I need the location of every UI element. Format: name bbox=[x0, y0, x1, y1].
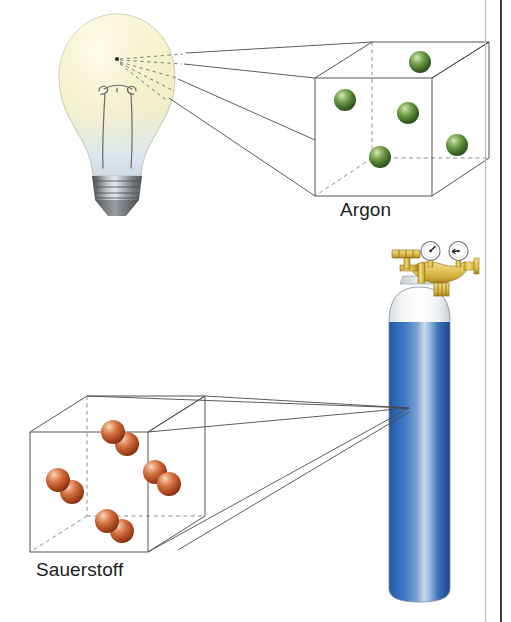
oxygen-molecule bbox=[143, 460, 181, 496]
argon-atom bbox=[409, 51, 431, 73]
page-margin-rule bbox=[485, 0, 486, 622]
regulator-adjust-screw[interactable] bbox=[434, 283, 449, 296]
argon-atom bbox=[369, 146, 391, 168]
oxygen-molecule bbox=[101, 420, 139, 456]
pressure-regulator bbox=[392, 242, 479, 297]
cylinder-body bbox=[389, 322, 450, 602]
argon-atom bbox=[446, 134, 468, 156]
bulb-glass-sheen bbox=[59, 14, 175, 176]
oxygen-molecule bbox=[95, 509, 134, 543]
oxygen-molecule bbox=[46, 468, 84, 504]
regulator-outlet-flange bbox=[474, 258, 479, 274]
argon-particles bbox=[334, 51, 468, 168]
figure-root: Argon Sauerstoff bbox=[0, 0, 511, 622]
argon-atom bbox=[334, 89, 356, 111]
light-bulb bbox=[59, 14, 183, 216]
bulb-screw-base bbox=[92, 176, 142, 216]
figure-illustration bbox=[0, 0, 511, 622]
regulator-riser bbox=[418, 263, 425, 283]
bulb-filament-hot-spot bbox=[115, 57, 119, 61]
bulb-base-tip bbox=[95, 200, 139, 216]
argon-label: Argon bbox=[340, 200, 391, 219]
argon-atom bbox=[397, 102, 419, 124]
argon-cube bbox=[315, 42, 489, 196]
oxygen-cube bbox=[30, 396, 205, 552]
oxygen-magnify-connectors bbox=[87, 396, 409, 552]
argon-magnify-connectors bbox=[169, 42, 372, 196]
oxygen-label: Sauerstoff bbox=[36, 560, 123, 579]
page-edge-rule bbox=[500, 0, 502, 622]
gauge-left bbox=[421, 242, 440, 261]
gas-cylinder bbox=[389, 242, 479, 603]
oxygen-particles bbox=[46, 420, 181, 543]
gauge-right bbox=[449, 242, 468, 261]
